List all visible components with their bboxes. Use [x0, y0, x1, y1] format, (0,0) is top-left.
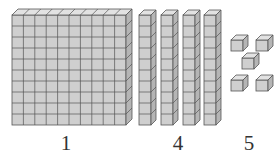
tens-rod	[139, 10, 156, 125]
base-ten-blocks-diagram	[0, 0, 277, 158]
tens-rod	[183, 10, 200, 125]
tens-rod	[204, 10, 221, 125]
hundreds-flat	[12, 9, 132, 125]
unit-cube	[231, 75, 248, 91]
tens-rod	[161, 10, 178, 125]
unit-cube	[231, 35, 248, 51]
unit-cube	[256, 75, 273, 91]
tens-count-label: 4	[173, 133, 184, 154]
hundreds-count-label: 1	[61, 133, 72, 154]
unit-cube	[256, 35, 273, 51]
ones-count-label: 5	[244, 133, 255, 154]
unit-cube	[242, 53, 259, 69]
